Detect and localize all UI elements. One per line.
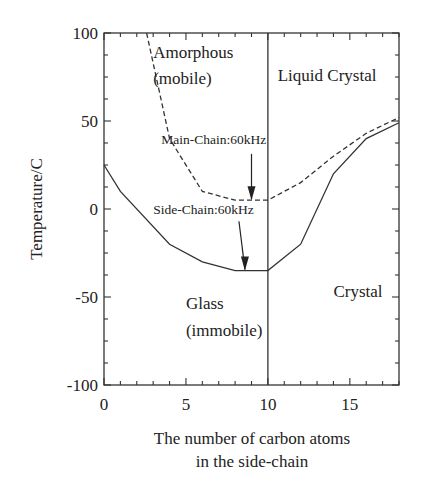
arrowhead-icon (248, 186, 256, 200)
y-tick-label: -100 (67, 376, 98, 395)
annotation-liquid-crystal: Liquid Crystal (278, 66, 377, 85)
y-tick-label: 100 (73, 24, 99, 43)
y-axis-title: Temperature/C (27, 158, 46, 260)
x-tick-label: 0 (100, 395, 109, 414)
annotation-side-chain-60khz: Side-Chain:60kHz (153, 202, 254, 217)
annotation-glass: Glass (186, 294, 224, 313)
y-tick-label: 50 (81, 112, 98, 131)
x-axis-title-line1: The number of carbon atoms (154, 429, 350, 448)
y-tick-label: -50 (75, 288, 98, 307)
x-axis-title-line2: in the side-chain (196, 452, 309, 471)
annotation-main-chain-60khz: Main-Chain:60kHz (161, 132, 266, 147)
annotation-crystal: Crystal (333, 282, 382, 301)
x-tick-label: 5 (182, 395, 191, 414)
annotation--mobile: (mobile) (153, 69, 212, 88)
arrowhead-icon (241, 257, 249, 271)
x-tick-label: 10 (259, 395, 276, 414)
x-tick-label: 15 (341, 395, 358, 414)
phase-diagram-chart: 051015100500-50-100 Amorphous(mobile)Liq… (0, 0, 424, 493)
annotation--immobile: (immobile) (186, 321, 262, 340)
y-tick-label: 0 (90, 200, 99, 219)
annotation-amorphous: Amorphous (153, 43, 233, 62)
